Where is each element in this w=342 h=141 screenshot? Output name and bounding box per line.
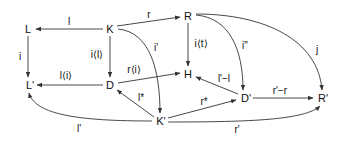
label-l: l	[68, 17, 70, 27]
label-l-prime: l'	[77, 124, 81, 134]
label-r-prime: r'	[234, 125, 239, 135]
node-R: R	[184, 11, 192, 22]
label-j: j	[316, 45, 318, 55]
label-l-prime-minus-l: l'−l	[218, 74, 230, 84]
node-R-prime: R'	[318, 93, 328, 104]
node-K-prime: K'	[156, 116, 165, 127]
label-i-t: i⟨t⟩	[195, 39, 208, 49]
arrow-j	[196, 14, 322, 90]
node-H: H	[184, 69, 192, 80]
label-i: i	[19, 52, 21, 62]
arrow-l-star	[117, 90, 154, 117]
node-L-prime: L'	[26, 80, 34, 91]
label-i-prime: i'	[154, 43, 158, 53]
label-r: r	[147, 10, 150, 20]
node-L: L	[25, 24, 31, 35]
label-i-double-prime: i"	[242, 41, 248, 51]
node-D-prime: D'	[241, 93, 251, 104]
label-i-l: i⟨l⟩	[91, 50, 103, 60]
node-D: D	[106, 80, 114, 91]
arrow-l-prime	[29, 93, 152, 121]
label-r-i: r⟨i⟩	[127, 65, 141, 75]
label-l-i: l⟨i⟩	[60, 71, 72, 81]
label-l-star: l*	[138, 93, 144, 103]
arrow-r-prime	[168, 106, 320, 122]
label-r-prime-minus-r: r'−r	[273, 86, 287, 96]
label-r-star: r*	[200, 97, 207, 107]
diagram-arrows	[0, 0, 342, 141]
node-K: K	[106, 24, 113, 35]
commutative-diagram: L K R H L' D D' R' K' l r i i⟨l⟩ i' i⟨t⟩…	[0, 0, 342, 141]
